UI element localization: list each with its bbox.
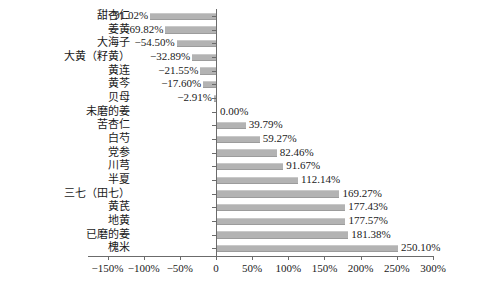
bar-row: 三七（田七）169.27% bbox=[0, 188, 477, 201]
bar-row: 川芎91.67% bbox=[0, 160, 477, 173]
value-label: 91.67% bbox=[286, 159, 320, 172]
x-axis-tick-mark bbox=[288, 256, 289, 260]
value-label: 250.10% bbox=[401, 241, 440, 254]
category-label: 黄芪 bbox=[108, 200, 130, 213]
value-label: 181.38% bbox=[351, 228, 390, 241]
bar-row: 大黄（籽黄）−32.89% bbox=[0, 51, 477, 64]
horizontal-bar-chart: 甜杏仁−91.02%姜黄−69.82%大海子−54.50%大黄（籽黄）−32.8… bbox=[0, 0, 477, 286]
category-label: 已磨的姜 bbox=[86, 228, 130, 241]
value-label: −69.82% bbox=[123, 23, 163, 36]
bar bbox=[217, 149, 277, 157]
x-axis-tick-mark bbox=[108, 256, 109, 260]
value-label: −17.60% bbox=[161, 77, 201, 90]
x-axis-tick-label: −100% bbox=[128, 262, 160, 274]
bar-row: 苦杏仁39.79% bbox=[0, 119, 477, 132]
x-axis-tick-mark bbox=[252, 256, 253, 260]
value-label: 177.57% bbox=[348, 214, 387, 227]
x-axis-tick-label: 50% bbox=[242, 262, 262, 274]
category-label: 贝母 bbox=[108, 91, 130, 104]
category-label: 大黄（籽黄） bbox=[64, 50, 130, 63]
bar-row: 贝母−2.91% bbox=[0, 92, 477, 105]
value-label: 169.27% bbox=[342, 187, 381, 200]
value-label: 82.46% bbox=[280, 146, 314, 159]
bar-row: 大海子−54.50% bbox=[0, 37, 477, 50]
bar-row: 未磨的姜0.00% bbox=[0, 106, 477, 119]
value-label: −54.50% bbox=[134, 36, 174, 49]
x-axis-tick-mark bbox=[180, 256, 181, 260]
bar bbox=[217, 245, 398, 253]
x-axis-tick-label: 300% bbox=[420, 262, 446, 274]
category-label: 未磨的姜 bbox=[86, 105, 130, 118]
bar-row: 黄芪177.43% bbox=[0, 201, 477, 214]
bar bbox=[165, 26, 216, 34]
bar-row: 甜杏仁−91.02% bbox=[0, 10, 477, 23]
category-axis-tick bbox=[212, 235, 216, 236]
category-axis-tick bbox=[212, 248, 216, 249]
x-axis-line bbox=[88, 256, 434, 257]
x-axis-tick-label: 100% bbox=[275, 262, 301, 274]
category-axis-tick bbox=[212, 57, 216, 58]
plot-area: 甜杏仁−91.02%姜黄−69.82%大海子−54.50%大黄（籽黄）−32.8… bbox=[0, 0, 477, 286]
category-label: 地黄 bbox=[108, 214, 130, 227]
value-label: −21.55% bbox=[158, 64, 198, 77]
x-axis-tick-label: −150% bbox=[92, 262, 124, 274]
x-axis-tick-label: −50% bbox=[167, 262, 193, 274]
bar-row: 已磨的姜181.38% bbox=[0, 229, 477, 242]
category-axis-tick bbox=[212, 112, 216, 113]
category-label: 半夏 bbox=[108, 173, 130, 186]
bar bbox=[217, 231, 348, 239]
category-axis-tick bbox=[212, 153, 216, 154]
bar-row: 党参82.46% bbox=[0, 147, 477, 160]
category-axis-tick bbox=[212, 207, 216, 208]
x-axis-tick-label: 200% bbox=[348, 262, 374, 274]
bar-row: 黄连−21.55% bbox=[0, 65, 477, 78]
bar bbox=[217, 218, 345, 226]
bar-row: 白芍59.27% bbox=[0, 133, 477, 146]
x-axis-tick-label: 250% bbox=[384, 262, 410, 274]
category-axis-tick bbox=[212, 166, 216, 167]
category-axis-tick bbox=[212, 16, 216, 17]
bar-row: 地黄177.57% bbox=[0, 215, 477, 228]
bar bbox=[217, 190, 339, 198]
bar bbox=[150, 13, 216, 21]
bar bbox=[217, 122, 246, 130]
bar-row: 黄芩−17.60% bbox=[0, 78, 477, 91]
category-axis-tick bbox=[212, 180, 216, 181]
bar-row: 姜黄−69.82% bbox=[0, 24, 477, 37]
zero-value-axis-line bbox=[216, 9, 217, 256]
category-label: 黄连 bbox=[108, 64, 130, 77]
category-label: 苦杏仁 bbox=[97, 118, 130, 131]
x-axis-tick-label: 0 bbox=[213, 262, 219, 274]
category-label: 槐米 bbox=[108, 241, 130, 254]
value-label: 112.14% bbox=[301, 173, 340, 186]
category-label: 大海子 bbox=[97, 36, 130, 49]
bar bbox=[217, 204, 345, 212]
x-axis-tick-mark bbox=[324, 256, 325, 260]
category-axis-tick bbox=[212, 194, 216, 195]
category-axis-tick bbox=[212, 30, 216, 31]
value-label: −91.02% bbox=[108, 9, 148, 22]
category-axis-tick bbox=[212, 139, 216, 140]
category-label: 三七（田七） bbox=[64, 187, 130, 200]
bar bbox=[217, 177, 298, 185]
value-label: −2.91% bbox=[177, 91, 212, 104]
bar bbox=[177, 40, 216, 48]
bar-row: 槐米250.10% bbox=[0, 242, 477, 255]
bar bbox=[217, 163, 283, 171]
value-label: 59.27% bbox=[263, 132, 297, 145]
value-label: 0.00% bbox=[220, 105, 248, 118]
value-label: 177.43% bbox=[348, 200, 387, 213]
x-axis-tick-mark bbox=[397, 256, 398, 260]
category-label: 白芍 bbox=[108, 132, 130, 145]
category-axis-tick bbox=[212, 71, 216, 72]
bar bbox=[217, 136, 260, 144]
category-label: 党参 bbox=[108, 146, 130, 159]
category-axis-tick bbox=[212, 221, 216, 222]
x-axis-tick-mark bbox=[144, 256, 145, 260]
category-axis-tick bbox=[212, 84, 216, 85]
category-axis-tick bbox=[212, 125, 216, 126]
category-label: 川芎 bbox=[108, 159, 130, 172]
x-axis-tick-mark bbox=[433, 256, 434, 260]
bar-row: 半夏112.14% bbox=[0, 174, 477, 187]
x-axis-tick-label: 150% bbox=[312, 262, 338, 274]
